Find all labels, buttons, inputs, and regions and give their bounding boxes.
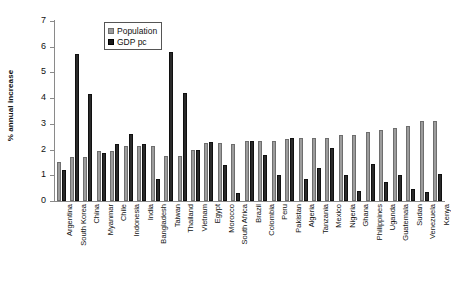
- bar-gdp-pc: [263, 155, 267, 201]
- x-axis-tick-label: Colombia: [267, 204, 276, 236]
- bar-group: [285, 21, 298, 201]
- bar-gdp-pc: [290, 138, 294, 201]
- y-axis-tick-label: 2: [30, 144, 46, 154]
- x-axis-tick-label: South Korea: [79, 204, 88, 246]
- bar-gdp-pc: [223, 165, 227, 201]
- y-axis-tick-label: 5: [30, 66, 46, 76]
- y-axis-tick: [50, 201, 55, 202]
- x-axis-tick-label: India: [146, 204, 155, 220]
- bar-gdp-pc: [384, 182, 388, 201]
- x-axis-tick-label: Egypt: [213, 204, 222, 223]
- y-axis-tick-label: 7: [30, 15, 46, 25]
- bar-group: [433, 21, 446, 201]
- legend-item-population: Population: [108, 25, 157, 36]
- bar-group: [312, 21, 325, 201]
- bar-population: [97, 151, 101, 201]
- bar-gdp-pc: [250, 141, 254, 201]
- x-axis-tick-label: Morocco: [227, 204, 236, 233]
- x-axis-tick-label: Argentina: [65, 204, 74, 236]
- x-axis-tick-label: Thailand: [186, 204, 195, 233]
- bar-population: [366, 132, 370, 201]
- bar-gdp-pc: [357, 191, 361, 201]
- bar-population: [272, 141, 276, 201]
- x-axis-tick-label: Algeria: [307, 204, 316, 227]
- bar-gdp-pc: [75, 54, 79, 201]
- bar-group: [339, 21, 352, 201]
- bar-gdp-pc: [438, 174, 442, 201]
- bar-gdp-pc: [62, 170, 66, 201]
- x-axis-tick-label: Pakistan: [294, 204, 303, 233]
- x-axis-tick-label: Ghana: [361, 204, 370, 227]
- x-axis-line: [54, 201, 445, 202]
- bar-population: [258, 141, 262, 201]
- bar-population: [204, 143, 208, 201]
- bar-population: [151, 146, 155, 201]
- y-axis-label-text: % annual increase: [7, 69, 16, 141]
- x-axis-tick-label: Taiwan: [173, 204, 182, 227]
- bar-group: [272, 21, 285, 201]
- bar-group: [178, 21, 191, 201]
- bar-population: [285, 139, 289, 201]
- bar-population: [379, 130, 383, 201]
- bar-group: [57, 21, 70, 201]
- y-axis-tick-label: 4: [30, 92, 46, 102]
- bar-group: [191, 21, 204, 201]
- x-axis-tick-label: Uganda: [388, 204, 397, 230]
- x-axis-tick-label: Vietnam: [200, 204, 209, 231]
- x-axis-tick-label: Chile: [119, 204, 128, 221]
- bar-gdp-pc: [330, 148, 334, 201]
- bar-population: [124, 146, 128, 201]
- bar-population: [70, 157, 74, 201]
- y-axis-tick-label: 6: [30, 41, 46, 51]
- x-axis-tick-label: China: [92, 204, 101, 224]
- bar-gdp-pc: [142, 144, 146, 201]
- bar-group: [406, 21, 419, 201]
- bar-population: [110, 151, 114, 201]
- bar-population: [137, 146, 141, 201]
- bar-population: [325, 138, 329, 201]
- bar-group: [299, 21, 312, 201]
- bar-group: [204, 21, 217, 201]
- y-axis-label: % annual increase: [0, 0, 22, 210]
- bar-group: [218, 21, 231, 201]
- bar-gdp-pc: [183, 93, 187, 201]
- bar-gdp-pc: [115, 144, 119, 201]
- bar-population: [299, 138, 303, 201]
- chart-legend: Population GDP pc: [104, 22, 162, 50]
- bar-population: [406, 126, 410, 201]
- y-axis-tick-label: 3: [30, 118, 46, 128]
- bar-gdp-pc: [425, 192, 429, 201]
- x-axis-tick-label: Brazil: [254, 204, 263, 223]
- bar-population: [393, 128, 397, 201]
- x-axis-tick-label: Nigeria: [348, 204, 357, 228]
- bar-gdp-pc: [102, 153, 106, 201]
- bar-group: [325, 21, 338, 201]
- bar-group: [164, 21, 177, 201]
- bar-population: [312, 138, 316, 201]
- x-axis-tick-label: South Africa: [240, 204, 249, 244]
- bar-gdp-pc: [129, 134, 133, 201]
- bar-population: [433, 121, 437, 201]
- bar-group: [70, 21, 83, 201]
- bar-gdp-pc: [277, 175, 281, 201]
- bar-gdp-pc: [344, 175, 348, 201]
- x-axis-tick-label: Sudan: [415, 204, 424, 226]
- bar-population: [83, 157, 87, 201]
- bar-gdp-pc: [169, 52, 173, 201]
- x-axis-tick-label: Kenya: [442, 204, 451, 225]
- bar-gdp-pc: [236, 193, 240, 201]
- bar-population: [178, 156, 182, 201]
- bar-population: [420, 121, 424, 201]
- bar-population: [218, 143, 222, 201]
- bar-population: [231, 144, 235, 201]
- bar-gdp-pc: [88, 94, 92, 201]
- x-axis-tick-label: Venezuela: [428, 204, 437, 239]
- bar-group: [231, 21, 244, 201]
- legend-label-population: Population: [117, 26, 157, 36]
- bar-population: [352, 135, 356, 201]
- bar-group: [258, 21, 271, 201]
- legend-swatch-gdp-pc-icon: [108, 39, 114, 45]
- bar-group: [83, 21, 96, 201]
- y-axis-tick-label: 0: [30, 195, 46, 205]
- legend-item-gdp-pc: GDP pc: [108, 36, 157, 47]
